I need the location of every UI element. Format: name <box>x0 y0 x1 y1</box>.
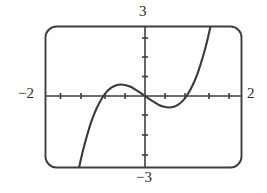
y-min-label: −3 <box>136 170 152 185</box>
y-max-label: 3 <box>139 4 147 19</box>
graph-figure: 3 −3 −2 2 <box>0 0 267 193</box>
x-min-label: −2 <box>18 86 34 101</box>
plot-canvas <box>0 0 267 193</box>
x-max-label: 2 <box>247 86 255 101</box>
graph-frame <box>46 27 242 168</box>
